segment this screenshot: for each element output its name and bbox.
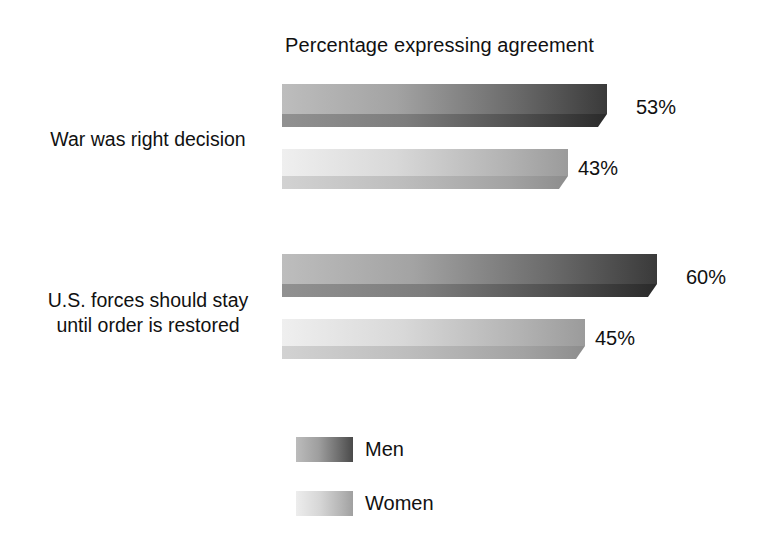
value-label-men-war-was-right-decision: 53% [636, 96, 676, 119]
value-label-women-us-forces-should-stay: 45% [595, 327, 635, 350]
category-label-us-forces-should-stay: U.S. forces should stay until order is r… [24, 288, 272, 338]
bar-shape-women-1 [282, 149, 582, 193]
value-label-men-us-forces-should-stay: 60% [686, 266, 726, 289]
legend-label-women: Women [365, 492, 434, 515]
legend-label-men: Men [365, 438, 404, 461]
category-label-war-was-right-decision: War was right decision [24, 127, 272, 152]
legend-item-women: Women [296, 490, 434, 516]
bar-women-us-forces-should-stay [282, 319, 602, 363]
legend-swatch-men-icon [296, 437, 353, 462]
chart-legend: Men Women [296, 436, 434, 544]
legend-swatch-women-icon [296, 491, 353, 516]
bar-chart: Percentage expressing agreement War was … [0, 0, 774, 548]
chart-title: Percentage expressing agreement [285, 34, 594, 57]
bar-shape-men-2 [282, 254, 672, 300]
bar-women-war-was-right-decision [282, 149, 582, 193]
bar-men-war-was-right-decision [282, 84, 612, 130]
bar-shape-women-2 [282, 319, 602, 363]
value-label-women-war-was-right-decision: 43% [578, 157, 618, 180]
legend-item-men: Men [296, 436, 434, 462]
bar-men-us-forces-should-stay [282, 254, 672, 300]
bar-shape-men-1 [282, 84, 612, 130]
